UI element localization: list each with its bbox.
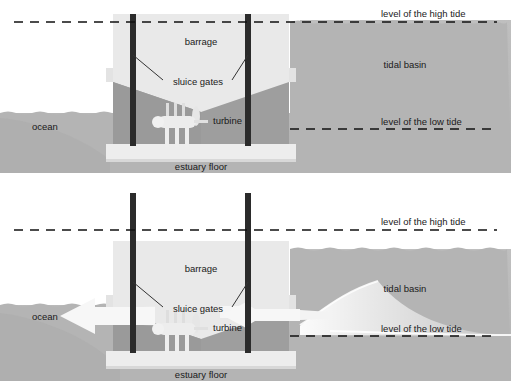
label-ocean: ocean — [32, 121, 58, 132]
label-tidal-basin: tidal basin — [384, 59, 427, 70]
turbine-riser-1 — [166, 103, 169, 117]
sluice-gate-left[interactable] — [130, 14, 136, 146]
turbine-riser-1 — [166, 310, 169, 324]
turbine-riser-3 — [182, 103, 185, 117]
turbine-leg-1 — [165, 332, 169, 354]
label-barrage: barrage — [185, 263, 218, 274]
tidal-basin-water — [290, 21, 511, 174]
label-estuary-floor: estuary floor — [175, 369, 227, 380]
sluice-gate-right[interactable] — [245, 193, 251, 353]
label-tidal-basin: tidal basin — [384, 283, 427, 294]
turbine-leg-3 — [185, 332, 189, 354]
sluice-gate-left[interactable] — [130, 193, 136, 353]
turbine-nose-cone — [152, 116, 164, 128]
label-low-tide: level of the low tide — [381, 116, 462, 127]
panel-high-tide: barrage sluice gates turbine estuary flo… — [0, 0, 511, 186]
panel-low-tide: barrage sluice gates turbine estuary flo… — [0, 193, 511, 389]
label-barrage: barrage — [185, 36, 218, 47]
label-low-tide: level of the low tide — [381, 323, 462, 334]
tidal-barrage-diagram: barrage sluice gates turbine estuary flo… — [0, 0, 511, 389]
turbine-shaft — [194, 120, 208, 123]
turbine-shaft — [194, 327, 208, 330]
turbine-riser-2 — [174, 103, 177, 117]
label-turbine: turbine — [213, 115, 242, 126]
sluice-gate-right[interactable] — [245, 14, 251, 146]
turbine-leg-2 — [175, 332, 179, 354]
label-sluice-gates: sluice gates — [173, 303, 223, 314]
turbine-nose-cone — [152, 323, 164, 335]
label-high-tide: level of the high tide — [381, 216, 466, 227]
label-ocean: ocean — [32, 311, 58, 322]
turbine-leg-2 — [175, 125, 179, 147]
label-estuary-floor: estuary floor — [175, 161, 227, 172]
label-turbine: turbine — [213, 322, 242, 333]
label-sluice-gates: sluice gates — [173, 76, 223, 87]
turbine-leg-1 — [165, 125, 169, 147]
label-high-tide: level of the high tide — [381, 8, 466, 19]
turbine-leg-3 — [185, 125, 189, 147]
